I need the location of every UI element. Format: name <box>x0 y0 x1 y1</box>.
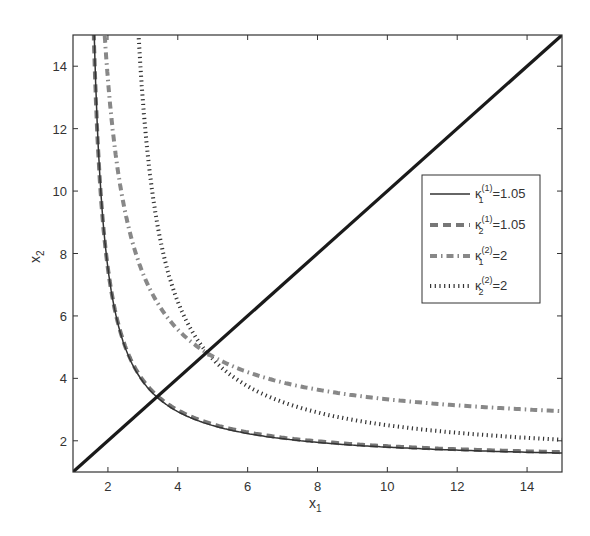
legend: κ(1)1=1.05 κ(1)2=1.05 κ(2)1=2 κ(2)2=2 <box>422 175 540 303</box>
y-tick-label: 14 <box>53 59 67 74</box>
y-tick-label: 10 <box>53 184 67 199</box>
x-axis-label: x1 <box>309 495 322 514</box>
y-tick-label: 2 <box>60 434 67 449</box>
x-tick-label: 2 <box>104 479 111 494</box>
y-tick-label: 8 <box>60 247 67 262</box>
x-tick-label: 8 <box>314 479 321 494</box>
x-tick-label: 4 <box>174 479 181 494</box>
y-tick-label: 6 <box>60 309 67 324</box>
x-tick-label: 12 <box>450 479 464 494</box>
y-tick-label: 12 <box>53 122 67 137</box>
x-tick-label: 10 <box>380 479 394 494</box>
x-tick-label: 14 <box>520 479 534 494</box>
y-axis-label: x2 <box>27 250 46 263</box>
chart-figure: 24681012142468101214 x1 x2 κ(1)1=1.05 κ(… <box>0 0 590 536</box>
x-tick-label: 6 <box>244 479 251 494</box>
y-tick-label: 4 <box>60 371 67 386</box>
